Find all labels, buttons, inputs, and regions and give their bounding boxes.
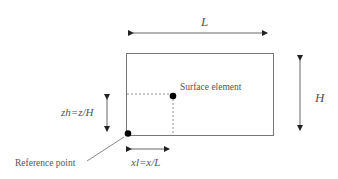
surface-element-label: Surface element [180, 83, 241, 93]
reference-point-label: Reference point [15, 159, 75, 169]
reference-point-dot [125, 130, 132, 137]
reference-leader-line [87, 137, 124, 161]
xl-label: xl=x/L [131, 157, 160, 168]
surface-element-dot [170, 93, 177, 100]
diagram-canvas [0, 0, 338, 179]
surface-rectangle [127, 54, 274, 136]
zh-label: zh=z/H [61, 107, 93, 118]
length-label: L [201, 15, 208, 28]
height-label: H [315, 91, 324, 104]
